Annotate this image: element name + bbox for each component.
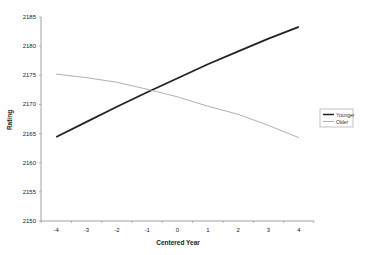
x-tick-label: -4 [53, 227, 59, 233]
y-axis-title: Rating [6, 110, 14, 130]
x-tick-label: 2 [236, 227, 240, 233]
x-tick-label: 4 [297, 227, 301, 233]
series-line-younger [56, 27, 299, 137]
x-axis: -4-3-2-101234 [41, 221, 314, 233]
x-tick-label: -1 [144, 227, 150, 233]
y-tick-label: 2185 [23, 14, 37, 20]
legend-label-older: Older [336, 119, 349, 125]
y-tick-label: 2160 [23, 160, 37, 166]
y-tick-label: 2180 [23, 43, 37, 49]
y-tick-label: 2170 [23, 101, 37, 107]
y-axis: 21502155216021652170217521802185 [23, 14, 41, 224]
x-tick-label: 0 [176, 227, 180, 233]
legend: Younger Older [320, 109, 355, 127]
y-tick-label: 2175 [23, 72, 37, 78]
x-tick-label: -3 [84, 227, 90, 233]
x-tick-label: -2 [114, 227, 120, 233]
y-tick-label: 2165 [23, 131, 37, 137]
y-tick-label: 2150 [23, 218, 37, 224]
series-lines [56, 27, 299, 138]
x-tick-label: 3 [267, 227, 271, 233]
x-tick-label: 1 [206, 227, 210, 233]
y-tick-label: 2155 [23, 189, 37, 195]
line-chart: 21502155216021652170217521802185 -4-3-2-… [0, 0, 367, 255]
series-line-older [56, 74, 299, 138]
legend-label-younger: Younger [336, 112, 355, 118]
x-axis-title: Centered Year [156, 239, 200, 246]
